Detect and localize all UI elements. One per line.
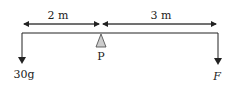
lever-diagram: 2 m 3 m P 30g F [0, 0, 232, 86]
force-arrow-left [18, 33, 26, 64]
force-label-right: F [212, 70, 221, 83]
dimension-2m: 2 m [24, 9, 99, 24]
force-arrow-right [214, 33, 222, 65]
pivot-triangle-icon [96, 34, 106, 47]
force-label-left: 30g [13, 68, 34, 81]
pivot-label: P [97, 50, 105, 63]
dimension-label-right: 3 m [151, 9, 172, 22]
down-arrow-icon [18, 57, 26, 64]
dimension-3m: 3 m [103, 9, 216, 24]
down-arrow-icon [214, 58, 222, 65]
dimension-label-left: 2 m [48, 9, 69, 22]
